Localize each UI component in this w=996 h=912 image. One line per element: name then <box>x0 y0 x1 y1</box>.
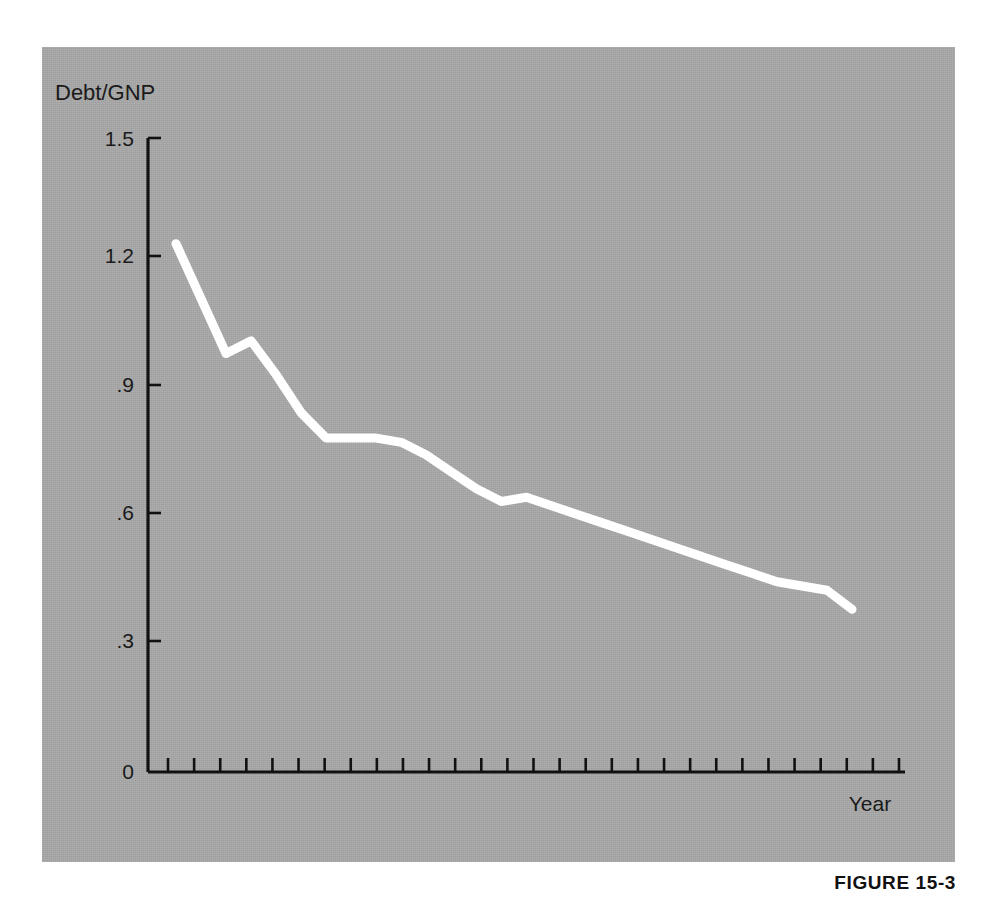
y-axis-ticks <box>148 138 161 641</box>
chart-plot-area: Debt/GNP 1.5 1.2 .9 .6 .3 0 Yea <box>42 47 955 862</box>
y-tick-label-1.5: 1.5 <box>105 127 134 150</box>
figure-root: Debt/GNP 1.5 1.2 .9 .6 .3 0 Yea <box>0 0 996 912</box>
x-axis-title: Year <box>849 792 891 815</box>
chart-plate: Debt/GNP 1.5 1.2 .9 .6 .3 0 Yea <box>42 47 955 862</box>
y-tick-label-0: 0 <box>122 760 134 783</box>
data-line-debt-gnp <box>176 244 852 610</box>
figure-caption: FIGURE 15-3 <box>834 872 956 894</box>
y-axis-title: Debt/GNP <box>55 80 155 105</box>
y-tick-label-1.2: 1.2 <box>105 244 134 267</box>
x-axis-ticks <box>168 758 899 772</box>
y-tick-label-0.3: .3 <box>116 629 134 652</box>
y-tick-label-0.9: .9 <box>116 373 134 396</box>
y-tick-label-0.6: .6 <box>116 501 134 524</box>
